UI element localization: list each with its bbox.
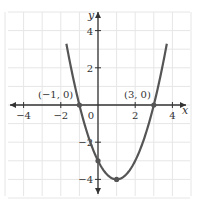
annotation-3-0: (3, 0) xyxy=(124,89,151,100)
x-tick-label: 2 xyxy=(132,110,138,121)
axes xyxy=(10,12,186,194)
x-tick-label: 0 xyxy=(88,110,94,121)
x-tick-label: −2 xyxy=(53,110,68,121)
parabola-chart: −4−202442−2−4 (−1, 0)(3, 0) x y xyxy=(0,0,198,200)
data-point xyxy=(151,102,156,107)
data-point xyxy=(77,102,82,107)
x-tick-label: −4 xyxy=(16,110,31,121)
annotation-neg1-0: (−1, 0) xyxy=(38,89,73,100)
x-axis-label: x xyxy=(182,104,189,117)
y-tick-label: −4 xyxy=(78,174,93,185)
x-tick-label: 4 xyxy=(169,110,175,121)
data-point xyxy=(95,158,100,163)
y-tick-label: 2 xyxy=(87,63,93,74)
point-annotations: (−1, 0)(3, 0) xyxy=(38,89,151,100)
data-point xyxy=(114,177,119,182)
y-axis-label: y xyxy=(87,9,95,22)
y-tick-label: 4 xyxy=(87,26,93,37)
